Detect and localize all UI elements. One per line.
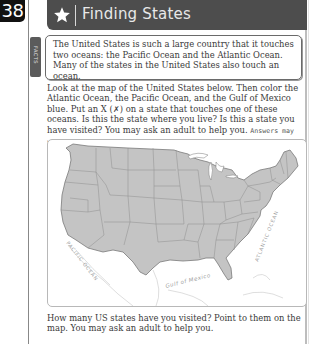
gulf-of-mexico-label: Gulf of Mexico — [165, 272, 212, 289]
page-title: Finding States — [82, 5, 191, 23]
page-border-right-inner — [308, 0, 309, 344]
page-border-left — [28, 0, 29, 344]
facts-tab-label: FACTS — [33, 40, 39, 70]
facts-box: The United States is such a large countr… — [45, 35, 302, 80]
header-divider — [75, 5, 76, 26]
instructions-paragraph: Look at the map of the United States bel… — [47, 83, 307, 147]
bottom-question: How many US states have you visited? Poi… — [47, 313, 307, 334]
us-map[interactable]: PACIFIC OCEAN ATLANTIC OCEAN Gulf of Mex… — [47, 139, 307, 307]
section-header: Finding States — [47, 0, 307, 30]
facts-text: The United States is such a large countr… — [53, 39, 299, 81]
us-landmass — [61, 144, 298, 280]
star-icon — [53, 6, 71, 24]
us-map-graphic: PACIFIC OCEAN ATLANTIC OCEAN Gulf of Mex… — [48, 140, 306, 306]
facts-tab: FACTS — [30, 37, 41, 77]
page-number: 38 — [0, 0, 25, 22]
